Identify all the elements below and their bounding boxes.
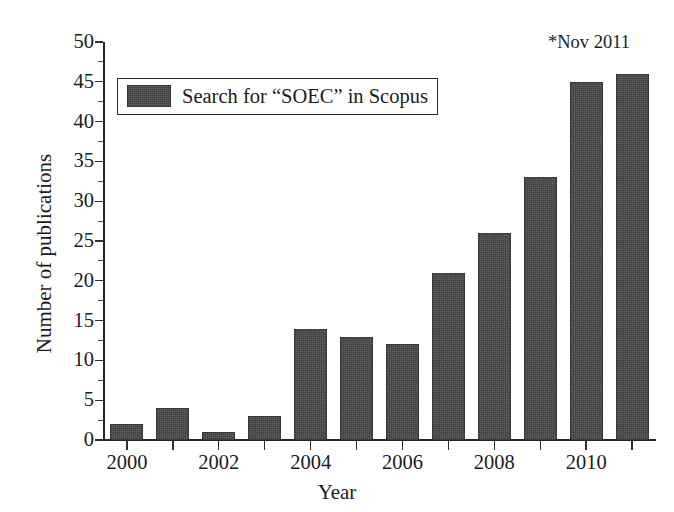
- publications-bar-chart: 05101520253035404550 2000200220042006200…: [0, 0, 674, 512]
- y-tick-40: [95, 121, 103, 122]
- legend-swatch-soec: [127, 85, 171, 107]
- y-minor-tick: [98, 101, 103, 102]
- y-axis-title: Number of publications: [32, 104, 57, 404]
- x-tick-2008: [494, 441, 495, 450]
- x-tick-2010: [585, 441, 586, 450]
- y-tick-35: [95, 161, 103, 162]
- y-tick-0: [95, 439, 103, 440]
- x-tick-2001: [172, 441, 173, 450]
- bar-2005: [340, 337, 373, 440]
- y-minor-tick: [98, 260, 103, 261]
- bar-2000: [110, 424, 143, 440]
- bar-2009: [524, 177, 557, 440]
- x-tick-2002: [218, 441, 219, 450]
- x-tick-2009: [540, 441, 541, 450]
- annotation-nov-2011: *Nov 2011: [548, 33, 630, 52]
- y-tick-25: [95, 240, 103, 241]
- y-minor-tick: [98, 141, 103, 142]
- legend-label-soec: Search for “SOEC” in Scopus: [182, 86, 428, 107]
- y-tick-15: [95, 320, 103, 321]
- y-tick-label-45: 45: [46, 71, 94, 92]
- bar-2010: [570, 82, 603, 440]
- y-tick-label-0: 0: [46, 429, 94, 450]
- bar-2003: [248, 416, 281, 440]
- x-tick-label-2008: 2008: [454, 452, 534, 473]
- y-minor-tick: [98, 380, 103, 381]
- x-tick-2004: [310, 441, 311, 450]
- x-tick-2003: [264, 441, 265, 450]
- x-tick-label-2006: 2006: [362, 452, 442, 473]
- y-tick-30: [95, 201, 103, 202]
- legend: Search for “SOEC” in Scopus: [117, 78, 438, 115]
- y-tick-5: [95, 400, 103, 401]
- x-tick-2011: [631, 441, 632, 450]
- x-tick-2005: [356, 441, 357, 450]
- bar-2008: [478, 233, 511, 440]
- bar-2006: [386, 344, 419, 440]
- bar-2001: [156, 408, 189, 440]
- y-tick-20: [95, 280, 103, 281]
- y-tick-45: [95, 81, 103, 82]
- bar-2002: [202, 432, 235, 440]
- x-tick-label-2004: 2004: [271, 452, 351, 473]
- y-minor-tick: [98, 181, 103, 182]
- y-minor-tick: [98, 420, 103, 421]
- x-tick-2006: [402, 441, 403, 450]
- y-minor-tick: [98, 340, 103, 341]
- x-tick-label-2000: 2000: [87, 452, 167, 473]
- bar-2007: [432, 273, 465, 440]
- x-tick-label-2002: 2002: [179, 452, 259, 473]
- y-minor-tick: [98, 300, 103, 301]
- x-tick-2007: [448, 441, 449, 450]
- bar-2011: [616, 74, 649, 440]
- y-tick-10: [95, 360, 103, 361]
- y-tick-50: [95, 41, 103, 42]
- bar-2004: [294, 329, 327, 440]
- x-tick-2000: [126, 441, 127, 450]
- x-tick-label-2010: 2010: [546, 452, 626, 473]
- x-axis-title: Year: [0, 480, 674, 505]
- y-tick-label-50: 50: [46, 31, 94, 52]
- y-minor-tick: [98, 61, 103, 62]
- y-minor-tick: [98, 221, 103, 222]
